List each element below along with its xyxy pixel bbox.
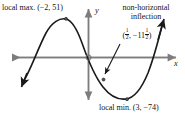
inflection-x-denominator: 2 bbox=[125, 35, 129, 41]
coord-separator: , −11 bbox=[129, 31, 145, 40]
curve-tail-lower-left bbox=[22, 73, 28, 87]
x-axis-label: x bbox=[174, 59, 178, 68]
inflection-dot bbox=[102, 78, 105, 81]
y-axis-label: y bbox=[95, 6, 99, 15]
inflection-coordinate: (12, −1112) bbox=[109, 29, 165, 41]
local-max-label: local max. (−2, 51) bbox=[2, 4, 63, 13]
inflection-leader-arrow bbox=[105, 44, 120, 74]
inflection-y-fraction: 12 bbox=[145, 28, 149, 40]
inflection-label-line2: inflection bbox=[131, 12, 162, 21]
inflection-label: non-horizontal inflection bbox=[108, 4, 184, 21]
inflection-label-line1: non-horizontal bbox=[123, 3, 170, 12]
cubic-graph-figure: local max. (−2, 51) non-horizontal infle… bbox=[0, 0, 185, 117]
local-min-label: local min. (3, −74) bbox=[99, 104, 159, 113]
inflection-y-denominator: 2 bbox=[145, 35, 149, 41]
local-max-dot bbox=[65, 17, 68, 20]
local-min-dot bbox=[126, 98, 129, 101]
inflection-x-fraction: 12 bbox=[125, 28, 129, 40]
coord-close-paren: ) bbox=[149, 31, 152, 40]
